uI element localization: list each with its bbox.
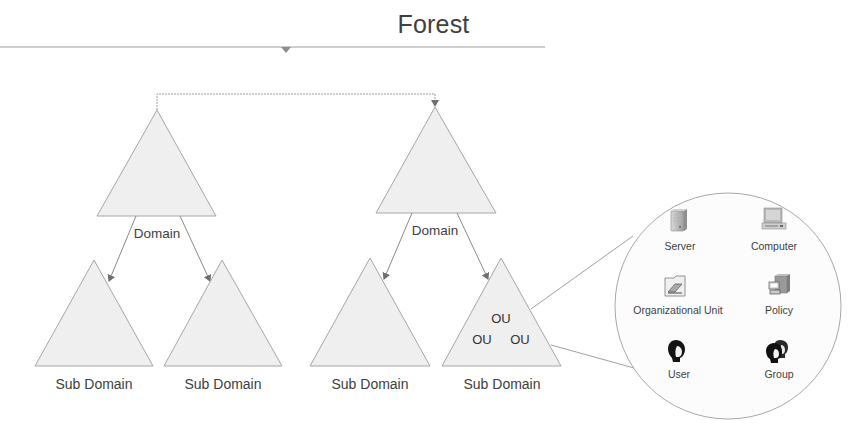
domain-label-1: Domain — [133, 226, 182, 241]
policy-label: Policy — [765, 304, 793, 316]
title-separator — [0, 47, 545, 53]
domain-label-2: Domain — [411, 223, 460, 238]
user-label: User — [668, 368, 690, 380]
forest-connector — [157, 94, 439, 110]
subdomain-triangle-3[interactable] — [310, 258, 430, 366]
ou-label-top: OU — [491, 311, 511, 326]
ou-label-left: OU — [472, 332, 492, 347]
domain-triangle-2[interactable] — [376, 107, 496, 213]
server-label: Server — [665, 240, 696, 252]
forest-diagram — [0, 0, 867, 439]
subdomain-triangle-1[interactable] — [35, 260, 153, 366]
subdomain-label-2: Sub Domain — [184, 376, 261, 392]
computer-label: Computer — [751, 240, 797, 252]
ou-label-right: OU — [510, 332, 530, 347]
group-label: Group — [764, 368, 793, 380]
subdomain-triangle-2[interactable] — [164, 260, 282, 366]
server-icon — [671, 209, 687, 231]
subdomain-label-4: Sub Domain — [463, 376, 540, 392]
subdomain-label-3: Sub Domain — [331, 376, 408, 392]
subdomain-label-1: Sub Domain — [55, 376, 132, 392]
domain-triangle-1[interactable] — [97, 110, 216, 216]
organizational-unit-icon — [665, 276, 685, 296]
organizational-unit-label: Organizational Unit — [633, 304, 722, 316]
